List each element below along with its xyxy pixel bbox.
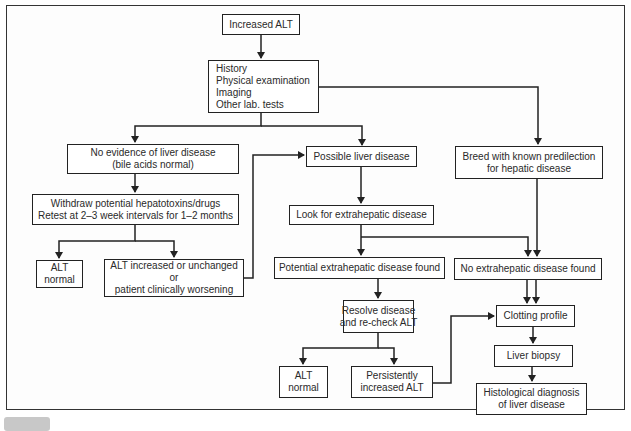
node-text: Histological diagnosis [483,387,579,399]
node-look-extrahepatic: Look for extrahepatic disease [289,205,434,225]
node-histology: Histological diagnosis of liver disease [476,383,587,415]
node-text: Liver biopsy [507,350,560,362]
node-persistent: Persistently increased ALT [351,366,433,398]
node-no-evidence: No evidence of liver disease (bile acids… [67,144,239,174]
node-text: Look for extrahepatic disease [296,209,427,221]
node-text: No evidence of liver disease [90,147,215,159]
node-possible-liver: Possible liver disease [306,146,417,167]
node-withdraw: Withdraw potential hepatotoxins/drugs Re… [32,194,239,225]
node-clotting: Clotting profile [496,305,575,327]
node-text: Possible liver disease [313,151,409,163]
node-text: (bile acids normal) [112,159,194,171]
node-text: Imaging [216,87,252,99]
node-text: and re-check ALT [340,317,418,329]
node-text: Increased ALT [229,19,293,31]
node-text: ALT [51,262,69,274]
node-potential-found: Potential extrahepatic disease found [274,257,445,279]
node-workup: History Physical examination Imaging Oth… [208,60,319,113]
node-text: History [216,63,247,75]
node-text: Potential extrahepatic disease found [279,262,440,274]
node-text: No extrahepatic disease found [460,263,595,275]
node-text: Physical examination [216,75,310,87]
node-text: of liver disease [498,399,565,411]
node-text: normal [288,382,319,394]
node-text: ALT [295,370,313,382]
node-resolve: Resolve disease and re-check ALT [343,300,414,333]
node-biopsy: Liver biopsy [494,345,573,367]
node-text: for hepatic disease [487,163,571,175]
node-text: Breed with known predilection [463,151,596,163]
node-text: Other lab. tests [216,99,284,111]
node-text: Resolve disease [342,305,415,317]
node-text: Persistently [366,370,418,382]
node-text: increased ALT [360,382,423,394]
node-increased-alt: Increased ALT [222,14,300,35]
node-alt-increased: ALT increased or unchanged or patient cl… [104,259,244,297]
figure-number-badge [4,417,50,431]
node-alt-normal-left: ALT normal [36,260,83,288]
node-text: patient clinically worsening [115,284,233,296]
node-text: ALT increased or unchanged [110,260,238,272]
node-breed: Breed with known predilection for hepati… [455,146,603,179]
node-alt-normal-mid: ALT normal [279,366,328,398]
node-no-extrahepatic: No extrahepatic disease found [454,258,602,280]
node-text: normal [44,274,75,286]
node-text: Withdraw potential hepatotoxins/drugs [51,198,221,210]
node-text: or [170,272,179,284]
node-text: Retest at 2–3 week intervals for 1–2 mon… [38,210,233,222]
node-text: Clotting profile [504,310,568,322]
